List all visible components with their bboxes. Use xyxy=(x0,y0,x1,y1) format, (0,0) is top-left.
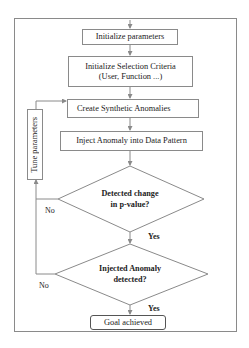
tune-params-box: Tune parameters xyxy=(27,109,43,180)
decision-pvalue-line1: Detected change xyxy=(80,188,180,199)
decision1-no-label: No xyxy=(45,206,55,215)
decision-injected: Injected Anomaly detected? xyxy=(75,263,185,285)
decision2-no-label: No xyxy=(39,281,49,290)
tune-params-label: Tune parameters xyxy=(30,117,40,173)
decision-injected-line1: Injected Anomaly xyxy=(75,263,185,274)
decision-injected-line2: detected? xyxy=(75,274,185,285)
goal-label: Goal achieved xyxy=(104,318,152,328)
decision-pvalue: Detected change in p-value? xyxy=(80,188,180,210)
selection-criteria-line1: Initialize Selection Criteria xyxy=(85,62,176,72)
goal-box: Goal achieved xyxy=(90,315,166,330)
init-params-label: Initialize parameters xyxy=(96,32,165,42)
inject-anomaly-box: Inject Anomaly into Data Pattern xyxy=(60,131,203,151)
inject-anomaly-label: Inject Anomaly into Data Pattern xyxy=(76,136,187,146)
create-anomalies-label: Create Synthetic Anomalies xyxy=(77,104,171,114)
init-params-box: Initialize parameters xyxy=(82,29,178,45)
selection-criteria-box: Initialize Selection Criteria (User, Fun… xyxy=(68,56,193,87)
decision1-yes-label: Yes xyxy=(148,232,160,241)
create-anomalies-box: Create Synthetic Anomalies xyxy=(67,99,199,118)
selection-criteria-line2: (User, Function ...) xyxy=(99,72,162,82)
decision-pvalue-line2: in p-value? xyxy=(80,199,180,210)
decision2-yes-label: Yes xyxy=(148,304,160,313)
